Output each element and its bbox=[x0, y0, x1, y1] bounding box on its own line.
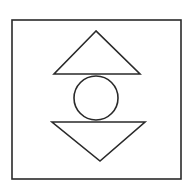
square-frame bbox=[12, 20, 181, 179]
upward-triangle bbox=[54, 31, 140, 74]
circle bbox=[74, 76, 118, 120]
diagram-canvas bbox=[0, 0, 194, 186]
downward-triangle bbox=[52, 122, 145, 161]
